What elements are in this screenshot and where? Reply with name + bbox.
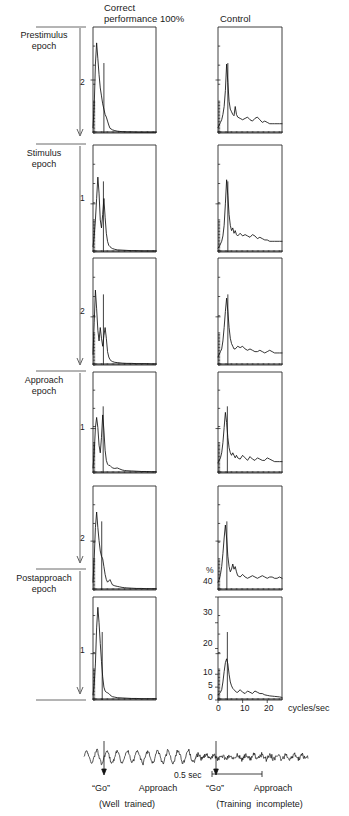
spectrum-panel — [216, 145, 283, 252]
eeg-trace-training-incomplete — [196, 752, 308, 761]
x-tick-20: 20 — [264, 703, 273, 713]
x-tick-0: 0 — [216, 703, 221, 713]
left-go-label: “Go” — [86, 782, 116, 794]
y-tick-20: 20 — [203, 638, 212, 648]
x-axis-label: cycles/sec — [288, 703, 330, 713]
spectra-panel-group — [0, 0, 349, 816]
go-marker-left — [102, 741, 107, 775]
left-condition-note: (Well trained) — [72, 798, 182, 810]
right-approach-label: Approach — [243, 782, 303, 794]
eeg-trace-well-trained — [84, 749, 196, 765]
y-tick-30: 30 — [203, 607, 212, 617]
y-tick-40: 40 — [203, 576, 212, 586]
spectrum-panel — [216, 258, 283, 365]
spectrum-panel — [216, 27, 283, 133]
spectrum-panel — [91, 27, 157, 133]
right-condition-note: (Training incomplete) — [192, 798, 327, 810]
right-axis-ticks — [215, 597, 267, 703]
y-tick-10: 10 — [203, 667, 212, 677]
spectrum-panel — [91, 145, 157, 252]
y-axis-unit-label: % — [206, 565, 214, 575]
y-tick-5: 5 — [208, 680, 213, 690]
spectrum-panel — [91, 597, 157, 700]
x-tick-10: 10 — [240, 703, 249, 713]
spectrum-panel — [91, 258, 157, 365]
y-tick-0: 0 — [208, 692, 213, 702]
figure-root: Correct performance 100% Control Prestim… — [0, 0, 349, 816]
spectrum-panel — [91, 372, 157, 473]
spectrum-panel — [216, 486, 283, 590]
spectrum-panel — [91, 486, 157, 590]
right-go-label: “Go” — [200, 782, 230, 794]
spectrum-panel — [216, 372, 283, 473]
scalebar-label: 0.5 sec — [174, 770, 201, 780]
left-approach-label: Approach — [128, 782, 188, 794]
spectrum-panel — [216, 597, 283, 700]
